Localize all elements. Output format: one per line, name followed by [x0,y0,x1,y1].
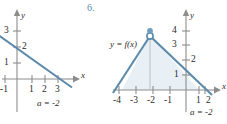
left-xtick-label-3: 3 [55,85,60,95]
left-xtick-label-1: 1 [29,85,34,95]
right-ytick-label-4: 4 [172,26,177,36]
right-ytick-label-1: 1 [174,70,179,80]
left-caption-a-value: a = -2 [37,99,60,108]
left-x-axis-arrowhead [73,76,80,83]
problem-number: 6. [87,3,95,13]
right-xtick-label-neg2: -2 [147,96,155,106]
left-y-axis-arrowhead [14,9,20,16]
left-ytick-label-2: 2 [22,42,27,52]
right-y-axis-arrowhead [183,9,189,16]
right-ytick-label-3: 3 [172,40,177,50]
right-x-axis-label: x [222,82,226,91]
left-xtick-label-neg1: -1 [0,85,8,95]
left-ytick-label-1: 1 [4,58,9,68]
right-caption-a-value: a = -2 [190,108,213,117]
left-y-axis-label: y [21,11,25,20]
right-xtick-label-neg1: -1 [164,96,172,106]
left-line-graph [0,36,72,88]
right-x-axis-arrowhead [214,87,221,94]
left-panel-graphics [0,9,80,112]
right-xtick-label-1: 1 [196,96,201,106]
right-xtick-label-2: 2 [206,96,211,106]
function-label: y = f(x) [110,40,137,49]
left-x-axis-label: x [81,71,85,80]
right-xtick-label-neg3: -3 [130,96,138,106]
right-y-axis-label: y [190,11,194,20]
figure-root: 6. y x 3 2 1 -1 1 2 3 a = -2 y x y = f(x… [0,0,227,124]
left-xtick-label-2: 2 [42,85,47,95]
right-ytick-label-2: 2 [191,55,196,65]
right-xtick-label-neg4: -4 [113,96,121,106]
right-filled-dot-marker [147,28,153,34]
left-ytick-label-3: 3 [4,26,9,36]
